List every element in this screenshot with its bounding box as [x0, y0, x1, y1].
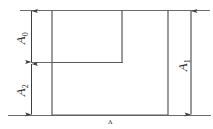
dimension-label-a2-base: A	[13, 88, 28, 96]
dimension-label-a2: A2	[14, 76, 31, 104]
l-shape-path	[52, 11, 122, 63]
dimension-label-a2-sub: 2	[21, 84, 30, 88]
dimension-label-a0: A0	[14, 24, 31, 52]
dimension-label-a0-sub: 0	[21, 32, 30, 36]
dimension-label-a1: A1	[176, 51, 193, 79]
dimension-label-a1-base: A	[175, 63, 190, 71]
part-outline	[52, 11, 168, 116]
foot-mark-glyph: ʌ	[108, 117, 113, 126]
dimension-label-a0-base: A	[13, 36, 28, 44]
drawing-canvas: A0 A2 A1 ʌ	[0, 0, 213, 129]
dimension-label-a1-sub: 1	[183, 59, 192, 63]
